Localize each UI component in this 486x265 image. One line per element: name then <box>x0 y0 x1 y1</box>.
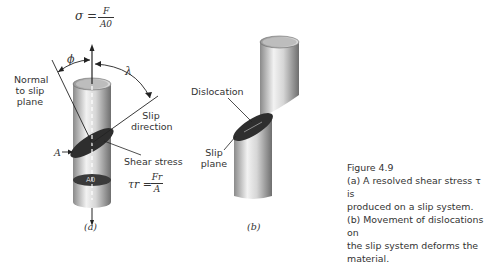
tau-numerator: Fr <box>151 172 163 184</box>
figure-number: Figure 4.9 <box>347 161 486 174</box>
phi-label: ϕ <box>67 54 75 65</box>
caption-line: (a) A resolved shear stress τ is <box>347 174 486 200</box>
dislocation-label: Dislocation <box>191 86 244 97</box>
normal-to-slip-plane-label: Normalto slipplane <box>14 74 46 107</box>
sigma-lhs: σ = <box>75 11 97 22</box>
sigma-denominator: A0 <box>98 19 114 30</box>
force-up-arrow-icon <box>90 44 95 51</box>
caption-line: produced on a slip system. <box>347 200 486 213</box>
tau-denominator: A <box>151 184 163 195</box>
figure-caption: Figure 4.9 (a) A resolved shear stress τ… <box>347 161 486 265</box>
caption-line: (b) Movement of dislocations on <box>347 213 486 239</box>
caption-line: the slip system deforms the material. <box>347 239 486 265</box>
sigma-numerator: F <box>98 6 114 18</box>
panel-b-sublabel: (b) <box>247 221 261 232</box>
cylinder-b <box>229 36 299 199</box>
panel-a-sublabel: (a) <box>84 221 97 232</box>
slip-direction-label: Slipdirection <box>131 110 171 132</box>
area-label: A <box>54 147 61 158</box>
tau-lhs: τr = <box>128 179 152 190</box>
slip-plane-label: Slipplane <box>200 147 228 169</box>
lambda-label: λ <box>125 66 132 77</box>
shear-stress-label: Shear stress <box>124 156 183 167</box>
area0-label: A0 <box>86 175 95 186</box>
